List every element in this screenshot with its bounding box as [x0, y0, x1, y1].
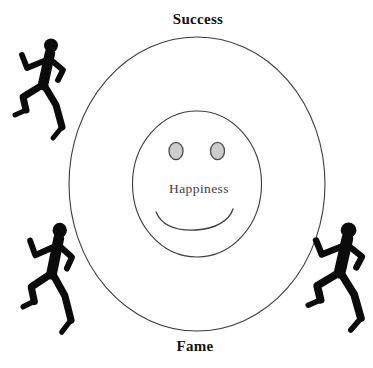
- happiness-label: Happiness: [169, 181, 229, 197]
- smile-curve: [156, 209, 233, 230]
- success-label: Success: [173, 11, 223, 28]
- right-eye: [211, 142, 225, 159]
- runner-icon: [308, 223, 362, 330]
- left-eye: [169, 142, 183, 159]
- runner-icon: [15, 39, 63, 139]
- happiness-diagram: Success Happiness Fame: [0, 0, 373, 368]
- fame-label: Fame: [176, 338, 213, 355]
- runner-icon: [23, 223, 72, 332]
